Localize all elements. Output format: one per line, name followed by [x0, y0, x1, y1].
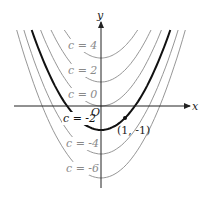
curve-label: c = 0 — [68, 88, 97, 101]
point-marker — [123, 116, 127, 120]
y-axis-label: y — [96, 9, 104, 22]
x-axis-label: x — [192, 100, 199, 113]
level-curves-diagram: x y O c = 4c = 2c = 0c = -2c = -4c = -6 … — [0, 0, 210, 199]
curve-label: c = 4 — [68, 39, 97, 52]
point-label: (1, -1) — [117, 124, 150, 137]
curve-label: c = -2 — [63, 112, 96, 125]
curve-label: c = -4 — [66, 137, 99, 150]
curve-label: c = 2 — [68, 64, 97, 77]
curve-label: c = -6 — [66, 162, 99, 175]
